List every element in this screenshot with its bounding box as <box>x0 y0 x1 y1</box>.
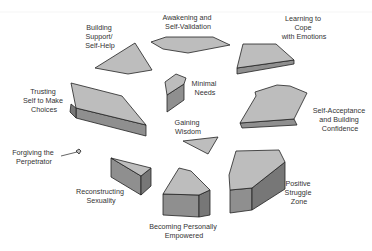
label-becoming-empowered: Becoming Personally Empowered <box>149 222 219 240</box>
label-minimal-needs: Minimal Needs <box>192 79 219 97</box>
label-building-support: Building Support/ Self-Help <box>85 23 115 50</box>
shape-awakening <box>151 37 230 53</box>
label-awakening: Awakening and Self-Validation <box>162 13 213 31</box>
label-reconstructing: Reconstructing Sexuality <box>76 187 126 205</box>
label-forgiving: Forgiving the Perpetrator <box>12 148 56 166</box>
shape-trusting-self <box>70 83 146 136</box>
diagram-canvas: Awakening and Self-Validation Building S… <box>0 0 372 251</box>
label-positive-struggle: Positive Struggle Zone <box>285 179 314 206</box>
label-trusting-self: Trusting Self to Make Choices <box>23 87 65 114</box>
shape-gaining-wisdom <box>183 137 218 154</box>
shape-minimal-needs <box>165 74 186 112</box>
shape-positive-struggle <box>229 150 285 213</box>
label-self-acceptance: Self-Acceptance and Building Confidence <box>313 106 367 133</box>
label-gaining-wisdom: Gaining Wisdom <box>175 118 202 136</box>
shape-self-acceptance <box>240 85 307 128</box>
label-learning-cope: Learning to Cope with Emotions <box>281 14 327 41</box>
shape-forgiving <box>61 149 81 156</box>
shape-learning-cope <box>237 44 294 74</box>
shape-becoming-empowered <box>163 168 210 217</box>
